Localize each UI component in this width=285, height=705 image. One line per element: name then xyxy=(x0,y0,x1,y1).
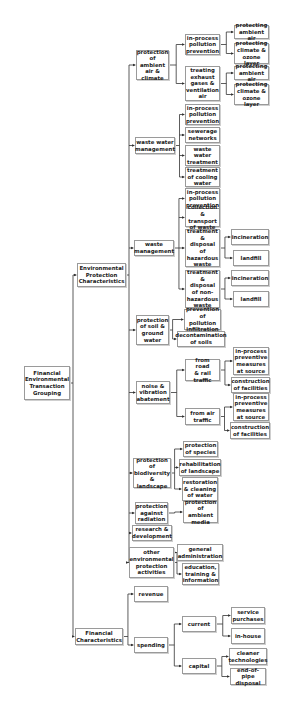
tree-node-bio: protection of biodiversity & landscape xyxy=(133,458,171,488)
tree-node-epc: Environmental Protection Characteristics xyxy=(77,263,126,287)
tree-node-air-te-c: protecting climate & ozone layer xyxy=(234,84,269,105)
tree-node-sp: spending xyxy=(134,637,168,653)
tree-node-noise-air: from air traffic xyxy=(185,408,220,425)
tree-node-rev: revenue xyxy=(134,586,168,602)
tree-node-ww-sn: sewerage networks xyxy=(185,127,220,143)
tree-node-cap: capital xyxy=(182,658,216,674)
tree-node-wm-ct: collection & transport of waste xyxy=(185,208,220,227)
tree-node-air-ip: in-process pollution prevention xyxy=(185,34,220,55)
tree-node-air-te: treating exhaust gases & ventilation air xyxy=(185,66,220,101)
tree-node-noise-rd-ip: in-process preventive measures at source xyxy=(233,347,269,375)
tree-node-fc: Financial Characteristics xyxy=(75,628,123,645)
tree-node-ww: waste water management xyxy=(135,137,175,154)
tree-node-ww-tr: waste water treatment xyxy=(185,145,220,166)
tree-node-rd: research & development xyxy=(132,525,172,541)
tree-node-soil-pi: prevention of pollution infiltration xyxy=(184,309,221,330)
tree-node-cur-ih: in-house xyxy=(231,628,265,644)
tree-diagram: Financial Environmental Transaction Grou… xyxy=(0,0,285,705)
tree-node-wm-hz-i: incineration xyxy=(231,229,269,245)
tree-node-oth: other environmental protection activitie… xyxy=(129,547,174,578)
tree-node-soil: protection of soil & ground water xyxy=(136,315,169,345)
tree-node-noise-air-ip: in-process preventive measures at source xyxy=(233,393,269,421)
tree-node-ww-cw: treatment of cooling water xyxy=(185,167,220,187)
tree-node-rad-am: protection of ambient media xyxy=(183,501,218,523)
tree-node-wm-nh-i: incineration xyxy=(231,270,269,286)
tree-node-air-ip-a: protecting ambient air xyxy=(234,25,269,39)
tree-node-ww-ip: in-process pollution prevention xyxy=(185,104,220,125)
tree-node-oth-ga: general administration xyxy=(177,544,223,561)
tree-node-noise: noise & vibration abatement xyxy=(136,381,170,404)
tree-node-oth-et: education, training & information xyxy=(182,563,219,585)
tree-node-bio-rl: rehabilitation of landscape xyxy=(179,459,221,476)
tree-node-noise-rd: from road & rail traffic xyxy=(185,359,220,381)
tree-node-air: protection of ambient air & climate xyxy=(136,50,169,80)
tree-node-wm-hz-l: landfill xyxy=(233,250,269,266)
tree-node-cur-sv: service purchases xyxy=(231,607,265,624)
tree-node-root: Financial Environmental Transaction Grou… xyxy=(24,366,70,400)
tree-node-noise-air-cf: construction of facilities xyxy=(230,422,270,439)
tree-node-bio-sp: protection of species xyxy=(183,441,218,457)
tree-node-bio-rw: restoration & cleaning of water xyxy=(182,477,218,501)
tree-node-rad: protection against radiation xyxy=(135,502,168,524)
tree-node-cur: current xyxy=(182,616,216,632)
tree-node-soil-dc: decontamination of soils xyxy=(177,331,225,347)
tree-node-noise-rd-cf: construction of facilities xyxy=(231,377,270,393)
tree-node-wm: waste management xyxy=(134,240,174,256)
tree-node-cap-ct: cleaner technologies xyxy=(229,648,267,665)
tree-node-wm-nh-l: landfill xyxy=(233,291,269,307)
tree-node-wm-hz: treatment & disposal of hazardous waste xyxy=(185,229,220,267)
tree-node-cap-ep: end-of-pipe disposal xyxy=(230,668,266,685)
tree-node-air-ip-c: protecting climate & ozone layer xyxy=(234,43,269,64)
tree-node-wm-nh: treatment & disposal of non- hazardous w… xyxy=(185,270,220,308)
tree-node-air-te-a: protecting ambient air xyxy=(234,66,269,80)
